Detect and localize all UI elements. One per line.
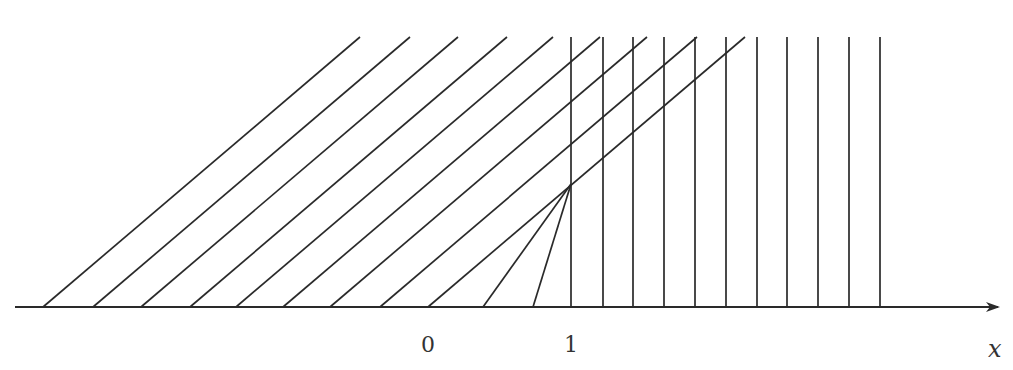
slanted-characteristic-line — [190, 37, 507, 307]
slanted-characteristic-line — [380, 37, 697, 307]
slanted-characteristic-line — [283, 37, 600, 307]
x-axis-label: x — [988, 335, 1002, 363]
tick-label-0: 0 — [421, 332, 435, 357]
slanted-characteristic-line — [93, 37, 410, 307]
rarefaction-fan — [483, 184, 571, 307]
slanted-characteristic-line — [330, 37, 647, 307]
slanted-characteristic-line — [141, 37, 458, 307]
slanted-characteristics — [43, 37, 745, 307]
characteristics-diagram: 01 x — [0, 0, 1013, 370]
axis-tick-labels: 01 — [421, 332, 578, 357]
fan-characteristic-line — [483, 184, 571, 307]
vertical-characteristics — [571, 37, 880, 307]
tick-label-1: 1 — [564, 332, 578, 357]
slanted-characteristic-line — [236, 37, 553, 307]
slanted-characteristic-line — [428, 37, 745, 307]
slanted-characteristic-line — [43, 37, 360, 307]
